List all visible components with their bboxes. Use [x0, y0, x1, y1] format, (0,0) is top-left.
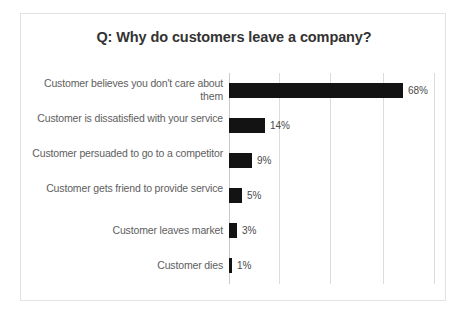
- category-label-4: Customer leaves market: [27, 224, 223, 237]
- category-label-0: Customer believes you don't care about t…: [27, 77, 223, 102]
- bar-value-4: 3%: [242, 225, 256, 236]
- bar-value-1: 14%: [270, 120, 290, 131]
- bar-1: [229, 118, 265, 133]
- table-row: Customer dies 1%: [21, 248, 447, 283]
- bar-group-2: 9%: [229, 153, 271, 168]
- category-label-2: Customer persuaded to go to a competitor: [27, 147, 223, 160]
- bar-2: [229, 153, 252, 168]
- category-label-1: Customer is dissatisfied with your servi…: [27, 112, 223, 125]
- bar-value-5: 1%: [237, 260, 251, 271]
- bar-3: [229, 188, 242, 203]
- category-label-5: Customer dies: [27, 259, 223, 272]
- table-row: Customer gets friend to provide service …: [21, 178, 447, 213]
- bar-group-3: 5%: [229, 188, 261, 203]
- bar-4: [229, 223, 237, 238]
- bar-0: [229, 83, 403, 98]
- bar-value-0: 68%: [408, 85, 428, 96]
- bar-5: [229, 258, 232, 273]
- chart-frame: Q: Why do customers leave a company? Cus…: [20, 13, 446, 301]
- bar-group-0: 68%: [229, 83, 428, 98]
- table-row: Customer believes you don't care about t…: [21, 73, 447, 108]
- bar-value-2: 9%: [257, 155, 271, 166]
- bar-group-4: 3%: [229, 223, 256, 238]
- table-row: Customer is dissatisfied with your servi…: [21, 108, 447, 143]
- bar-group-1: 14%: [229, 118, 290, 133]
- table-row: Customer leaves market 3%: [21, 213, 447, 248]
- category-label-3: Customer gets friend to provide service: [27, 182, 223, 195]
- bar-rows: Customer believes you don't care about t…: [21, 14, 447, 302]
- table-row: Customer persuaded to go to a competitor…: [21, 143, 447, 178]
- bar-group-5: 1%: [229, 258, 251, 273]
- bar-value-3: 5%: [247, 190, 261, 201]
